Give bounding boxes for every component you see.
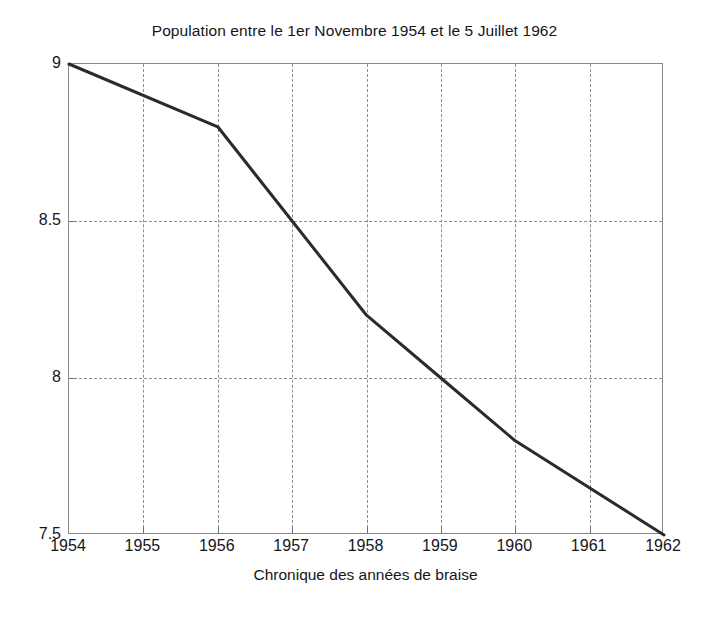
x-tick-mark bbox=[367, 527, 368, 533]
y-tick-label: 8.5 bbox=[39, 211, 68, 229]
x-tick-label: 1955 bbox=[125, 537, 161, 555]
y-tick-mark bbox=[69, 378, 75, 379]
x-tick-mark bbox=[218, 527, 219, 533]
x-tick-label: 1957 bbox=[273, 537, 309, 555]
x-tick-mark bbox=[515, 527, 516, 533]
x-axis-label: Chronique des années de braise bbox=[68, 566, 663, 584]
x-tick-mark bbox=[441, 527, 442, 533]
x-tick-mark bbox=[292, 527, 293, 533]
plot-area bbox=[68, 63, 663, 534]
x-tick-label: 1954 bbox=[50, 537, 86, 555]
x-tick-label: 1961 bbox=[571, 537, 607, 555]
x-tick-label: 1958 bbox=[348, 537, 384, 555]
y-tick-label: 8 bbox=[52, 368, 68, 386]
population-line bbox=[69, 64, 664, 535]
x-tick-mark bbox=[590, 527, 591, 533]
chart-page: Population entre le 1er Novembre 1954 et… bbox=[0, 0, 709, 617]
x-tick-label: 1959 bbox=[422, 537, 458, 555]
x-tick-label: 1956 bbox=[199, 537, 235, 555]
y-axis-tick-labels: 7.588.59 bbox=[0, 63, 68, 534]
x-tick-label: 1960 bbox=[496, 537, 532, 555]
data-line-series bbox=[69, 64, 664, 535]
x-tick-mark bbox=[143, 527, 144, 533]
x-tick-label: 1962 bbox=[645, 537, 681, 555]
y-tick-label: 9 bbox=[52, 54, 68, 72]
y-tick-mark bbox=[69, 221, 75, 222]
x-axis-tick-labels: 195419551956195719581959196019611962 bbox=[68, 537, 663, 561]
chart-title: Population entre le 1er Novembre 1954 et… bbox=[0, 22, 709, 40]
